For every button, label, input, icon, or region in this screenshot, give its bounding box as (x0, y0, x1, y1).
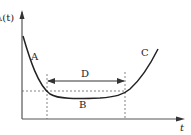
x-axis-label: t (180, 122, 185, 133)
region-c-label: C (141, 47, 149, 58)
failure-rate-curve (23, 36, 158, 99)
bathtub-diagram: λ(t) t A B C D (0, 0, 191, 135)
region-a-label: A (30, 51, 39, 62)
x-axis-arrow-icon (176, 117, 185, 122)
y-axis-label: λ(t) (0, 12, 14, 23)
y-axis-arrow-icon (20, 10, 25, 19)
region-d-label: D (81, 68, 89, 79)
region-b-label: B (79, 99, 86, 110)
